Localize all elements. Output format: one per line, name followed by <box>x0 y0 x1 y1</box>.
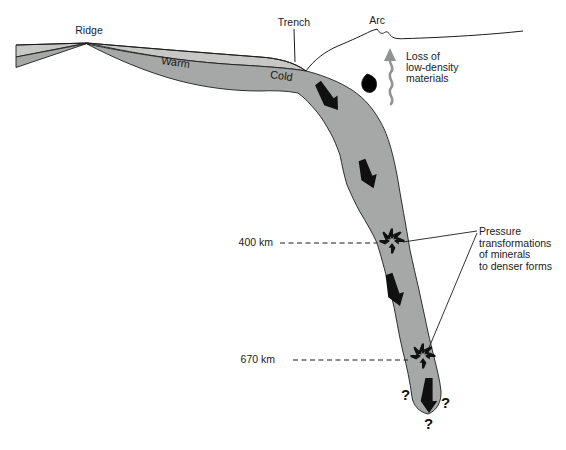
pressure-transformations-label: Pressure transformations of minerals to … <box>479 226 552 272</box>
loss-line-3: materials <box>406 73 459 84</box>
pressure-line-4: to denser forms <box>479 261 552 273</box>
question-mark-right: ? <box>441 394 450 411</box>
rising-materials-wavy-arrow <box>390 57 393 104</box>
question-mark-left: ? <box>401 386 410 403</box>
trench-pointer-line <box>294 29 295 62</box>
depth-670-label: 670 km <box>227 354 275 365</box>
pressure-line-1: Pressure <box>479 226 552 238</box>
depth-400-label: 400 km <box>225 237 273 248</box>
ridge-label: Ridge <box>69 25 109 36</box>
pressure-pointer-line-400 <box>403 231 477 242</box>
loss-of-low-density-materials-label: Loss of low-density materials <box>406 51 459 84</box>
trench-label: Trench <box>272 17 316 28</box>
arc-label: Arc <box>362 15 392 26</box>
pressure-pointer-line-670 <box>428 233 477 350</box>
rising-materials-arrowhead <box>384 48 396 61</box>
figure-canvas: Ridge Trench Arc Warm Cold Loss of low-d… <box>0 0 566 450</box>
melt-blob <box>362 74 377 92</box>
question-mark-bottom: ? <box>424 415 433 432</box>
